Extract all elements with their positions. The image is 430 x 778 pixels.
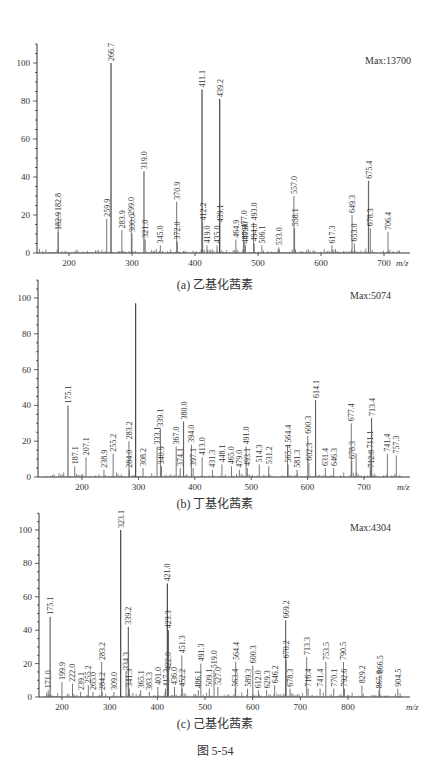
spectrum-panel-c: 020406080100200300400500600700800m/z171.… (0, 0, 430, 730)
x-tick-label: 300 (103, 702, 117, 712)
spectrum-chart-c: 020406080100200300400500600700800m/z171.… (0, 0, 430, 730)
y-tick-label: 60 (23, 592, 33, 602)
x-tick-label: 700 (294, 702, 308, 712)
y-tick-label: 80 (23, 558, 33, 568)
peak-label: 339.2 (124, 607, 133, 625)
peak-label: 421.0 (163, 563, 172, 581)
peak-label: 741.4 (316, 669, 325, 687)
max-intensity-label: Max:4304 (350, 522, 391, 533)
peak-label: 417.3 (162, 669, 171, 687)
peak-label: 829.2 (358, 665, 367, 683)
y-tick-label: 100 (19, 525, 33, 535)
peak-label: 753.5 (322, 642, 331, 660)
peak-label: 527.0 (214, 667, 223, 685)
peak-label: 284.2 (98, 672, 107, 690)
peak-label: 323.1 (117, 510, 126, 528)
peak-label: 334.3 (122, 652, 131, 670)
y-tick-label: 40 (23, 625, 33, 635)
peak-label: 866.5 (376, 655, 385, 673)
peak-label: 171.0 (44, 670, 53, 688)
peak-label: 452.2 (178, 669, 187, 687)
x-tick-label: 500 (198, 702, 212, 712)
figure-title: 图 5-54 (0, 741, 430, 759)
peak-label: 669.2 (282, 600, 291, 618)
peak-label: 365.1 (137, 670, 146, 688)
peak-label: 646.2 (271, 665, 280, 683)
peak-label: 792.6 (340, 669, 349, 687)
peak-label: 199.9 (58, 662, 67, 680)
peak-label: 451.3 (178, 635, 187, 653)
peak-label: 265.0 (89, 672, 98, 690)
peak-label: 341.3 (125, 669, 134, 687)
peak-label: 600.3 (249, 645, 258, 663)
x-axis-label: m/z (406, 702, 419, 712)
peak-label: 491.3 (197, 644, 206, 662)
x-tick-label: 400 (151, 702, 165, 712)
peak-label: 519.0 (210, 650, 219, 668)
peak-label: 678.3 (286, 669, 295, 687)
peak-label: 423.3 (164, 610, 173, 628)
peak-label: 904.5 (394, 669, 403, 687)
peak-label: 589.3 (244, 669, 253, 687)
peak-label: 716.4 (304, 669, 313, 687)
peak-label: 309.0 (110, 672, 119, 690)
x-tick-label: 600 (246, 702, 260, 712)
peak-label: 486.1 (194, 670, 203, 688)
peak-label: 283.2 (98, 642, 107, 660)
peak-label: 770.1 (330, 669, 339, 687)
peak-label: 713.3 (303, 637, 312, 655)
x-tick-label: 200 (55, 702, 69, 712)
peak-label: 790.5 (339, 642, 348, 660)
caption-c: (c) 己基化茜素 (0, 714, 430, 732)
x-tick-label: 800 (341, 702, 355, 712)
peak-label: 670.2 (282, 640, 291, 658)
peak-label: 564.4 (232, 642, 241, 660)
y-tick-label: 20 (23, 659, 33, 669)
peak-label: 175.1 (46, 597, 55, 615)
y-tick-label: 0 (28, 692, 33, 702)
